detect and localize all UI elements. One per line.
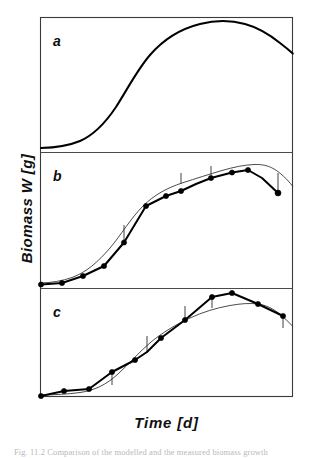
panel-c-data-polyline xyxy=(41,293,283,396)
panel-b-label: b xyxy=(53,168,62,184)
biomass-growth-figure: a b xyxy=(0,0,315,458)
x-axis-label: Time [d] xyxy=(40,414,293,431)
panel-c-model-curve xyxy=(41,304,293,396)
panel-a-model-curve xyxy=(41,21,293,148)
figure-root: a b xyxy=(0,0,315,458)
figure-caption: Fig. 11.2 Comparison of the modelled and… xyxy=(14,447,304,457)
y-axis-label: Biomass W [g] xyxy=(18,114,35,304)
panel-a-label: a xyxy=(53,33,61,49)
panel-b: b xyxy=(38,164,292,287)
panel-b-model-curve xyxy=(41,164,293,283)
panel-a: a xyxy=(41,21,293,148)
panel-c-data-markers xyxy=(38,290,285,398)
panel-b-data-polyline xyxy=(41,170,278,285)
panel-c-label: c xyxy=(53,304,61,320)
plot-frame xyxy=(41,18,293,397)
panel-b-data-markers xyxy=(38,167,281,287)
panel-c: c xyxy=(38,290,292,398)
